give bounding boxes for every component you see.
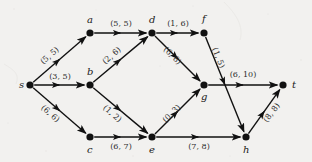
graph-node-d[interactable] <box>148 29 155 36</box>
graph-node-t[interactable] <box>279 81 286 88</box>
graph-node-h[interactable] <box>242 133 249 140</box>
edge-label-e-h: (7, 8) <box>188 143 210 151</box>
node-label-d: d <box>149 15 155 25</box>
node-label-h: h <box>243 145 249 155</box>
edge-layer <box>33 33 280 137</box>
graph-node-f[interactable] <box>200 29 207 36</box>
node-label-t: t <box>292 80 296 90</box>
edge-label-a-d: (5, 5) <box>110 20 132 28</box>
graph-node-a[interactable] <box>86 29 93 36</box>
node-label-s: s <box>19 80 24 90</box>
graph-node-b[interactable] <box>86 81 93 88</box>
graph-node-s[interactable] <box>26 81 33 88</box>
node-label-b: b <box>87 67 93 77</box>
graph-node-e[interactable] <box>148 133 155 140</box>
edge-label-s-b: (3, 5) <box>49 73 71 81</box>
edge-label-d-f: (1, 6) <box>167 20 189 28</box>
node-label-e: e <box>149 145 155 155</box>
graph-edge-direction-marker <box>56 107 60 110</box>
graph-edge-direction-marker <box>117 107 121 110</box>
node-label-g: g <box>201 92 207 102</box>
graph-node-c[interactable] <box>86 133 93 140</box>
graph-node-g[interactable] <box>200 81 207 88</box>
edge-label-c-e: (6, 7) <box>110 143 132 151</box>
node-label-a: a <box>87 15 93 25</box>
graph-canvas-svg <box>0 0 312 162</box>
graph-diagram: sabcdefght (5, 5)(3, 5)(6, 6)(5, 5)(2, 6… <box>0 0 312 162</box>
node-label-c: c <box>87 145 93 155</box>
graph-edge-direction-marker <box>56 59 60 62</box>
edge-label-g-t: (6, 10) <box>230 71 257 79</box>
node-label-f: f <box>202 14 206 24</box>
graph-edge-direction-marker <box>117 59 121 62</box>
